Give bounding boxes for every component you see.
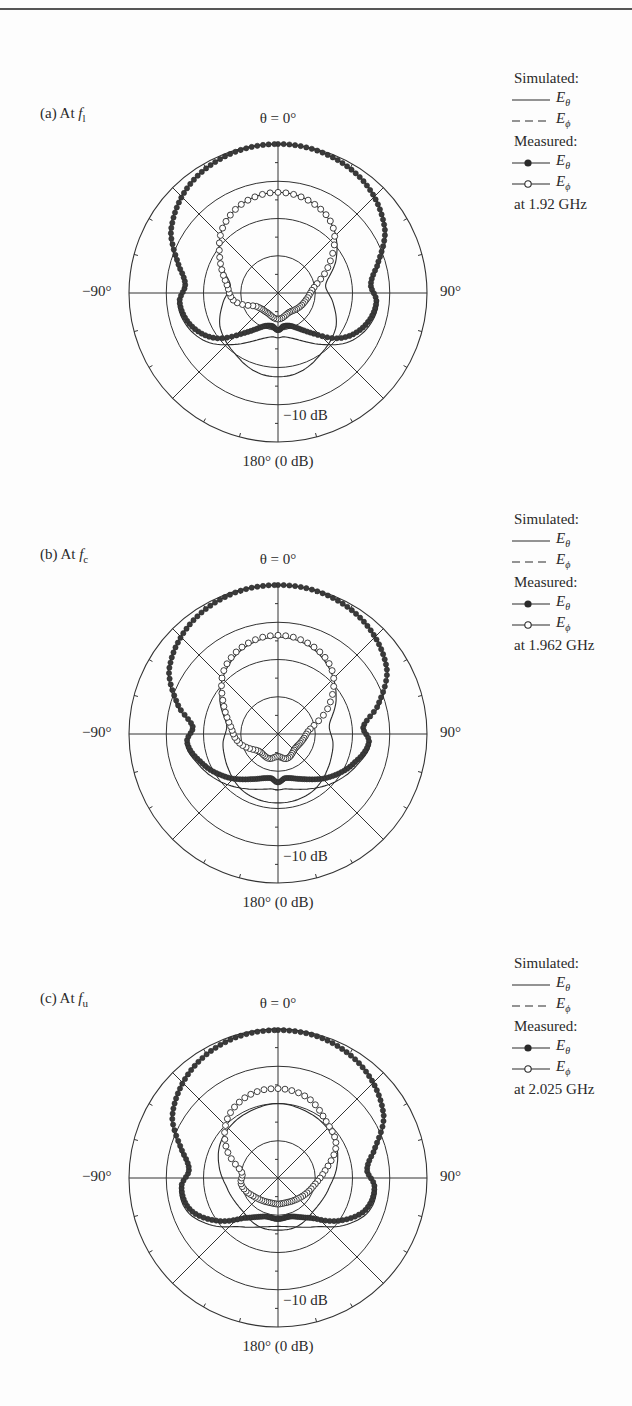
angle-tick	[239, 874, 240, 878]
angle-tick	[316, 874, 317, 878]
grid-spoke	[173, 1178, 278, 1283]
angle-tick	[351, 419, 353, 422]
legend-sim-etheta: Eθ	[512, 530, 594, 551]
frequency-label: at 2.025 GHz	[514, 1079, 594, 1100]
legend-simulated-heading: Simulated:	[514, 953, 594, 974]
filled-circle-marker-icon	[512, 598, 550, 610]
angle-tick	[239, 433, 240, 437]
angle-tick	[404, 660, 407, 662]
polar-grid	[129, 1029, 427, 1327]
legend-sim-ephi: Eϕ	[512, 995, 594, 1016]
legend-meas-ephi: Eϕ	[512, 173, 587, 194]
angle-tick	[351, 1049, 353, 1052]
angle-tick	[418, 254, 422, 255]
angle-tick	[418, 331, 422, 332]
angle-tick	[149, 366, 152, 368]
angle-tick	[204, 1304, 206, 1307]
legend-sim-etheta: Eθ	[512, 89, 587, 110]
grid-spoke	[278, 1178, 383, 1283]
panel-c: (c) At fu θ = 0° −90° 90° −10 dB 180° (0…	[0, 885, 632, 1355]
polar-grid	[129, 144, 427, 442]
frequency-label: at 1.92 GHz	[514, 194, 587, 215]
legend-meas-ephi: Eϕ	[512, 1058, 594, 1079]
panel-a: (a) At fl θ = 0° −90° 90° −10 dB 180° (0…	[0, 0, 632, 470]
angle-tick	[149, 1251, 152, 1253]
angle-tick	[134, 254, 138, 255]
angle-tick	[204, 419, 206, 422]
angle-tick	[204, 860, 206, 863]
solid-line-icon	[512, 979, 550, 991]
legend-measured-heading: Measured:	[514, 131, 587, 152]
polar-grid	[129, 585, 427, 883]
legend-meas-etheta: Eθ	[512, 1037, 594, 1058]
solid-line-icon	[512, 535, 550, 547]
open-circle-marker-icon	[512, 619, 550, 631]
db-ring-label: −10 dB	[281, 1292, 330, 1309]
angle-tick	[351, 860, 353, 863]
db-ring-label: −10 dB	[281, 407, 330, 424]
bottom-axis-label: 180° (0 dB)	[198, 1338, 358, 1355]
angle-tick	[134, 331, 138, 332]
angle-tick	[134, 1216, 138, 1217]
angle-tick	[149, 807, 152, 809]
legend-measured-heading: Measured:	[514, 1016, 594, 1037]
angle-tick	[149, 660, 152, 662]
angle-tick	[404, 807, 407, 809]
angle-tick	[134, 1139, 138, 1140]
filled-circle-marker-icon	[512, 1042, 550, 1054]
angle-tick	[149, 1104, 152, 1106]
legend-measured-heading: Measured:	[514, 572, 594, 593]
legend: Simulated: Eθ Eϕ Measured: Eθ Eϕ at 2.02…	[514, 953, 594, 1100]
angle-tick	[404, 219, 407, 221]
angle-tick	[149, 219, 152, 221]
legend-simulated-heading: Simulated:	[514, 509, 594, 530]
dashed-line-icon	[512, 556, 550, 568]
angle-tick	[404, 366, 407, 368]
angle-tick	[134, 772, 138, 773]
angle-tick	[316, 1318, 317, 1322]
angle-tick	[404, 1251, 407, 1253]
angle-tick	[316, 433, 317, 437]
frequency-label: at 1.962 GHz	[514, 635, 594, 656]
legend-simulated-heading: Simulated:	[514, 68, 587, 89]
legend-sim-ephi: Eϕ	[512, 551, 594, 572]
dashed-line-icon	[512, 115, 550, 127]
legend-meas-etheta: Eθ	[512, 593, 594, 614]
db-ring-label: −10 dB	[281, 848, 330, 865]
open-circle-marker-icon	[512, 178, 550, 190]
angle-tick	[418, 695, 422, 696]
angle-tick	[418, 1139, 422, 1140]
legend: Simulated: Eθ Eϕ Measured: Eθ Eϕ at 1.96…	[514, 509, 594, 656]
panel-b: (b) At fc θ = 0° −90° 90° −10 dB 180° (0…	[0, 441, 632, 911]
legend-sim-etheta: Eθ	[512, 974, 594, 995]
dashed-line-icon	[512, 1000, 550, 1012]
legend-meas-ephi: Eϕ	[512, 614, 594, 635]
grid-spoke	[278, 188, 383, 293]
legend: Simulated: Eθ Eϕ Measured: Eθ Eϕ at 1.92…	[514, 68, 587, 215]
angle-tick	[134, 695, 138, 696]
filled-circle-marker-icon	[512, 157, 550, 169]
legend-meas-etheta: Eθ	[512, 152, 587, 173]
angle-tick	[351, 1304, 353, 1307]
solid-line-icon	[512, 94, 550, 106]
angle-tick	[239, 1318, 240, 1322]
open-circle-marker-icon	[512, 1063, 550, 1075]
legend-sim-ephi: Eϕ	[512, 110, 587, 131]
angle-tick	[418, 1216, 422, 1217]
angle-tick	[404, 1104, 407, 1106]
angle-tick	[418, 772, 422, 773]
